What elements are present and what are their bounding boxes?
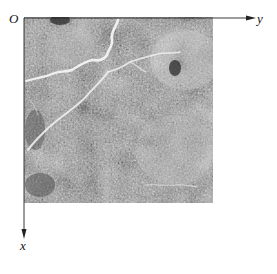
origin-label: O xyxy=(9,12,18,25)
surface-image xyxy=(24,15,220,203)
y-axis-label: y xyxy=(257,12,263,25)
coordinate-figure: O y x xyxy=(0,0,277,274)
figure-graphic xyxy=(0,0,277,274)
x-axis-label: x xyxy=(20,239,26,252)
y-axis-arrow-icon xyxy=(246,16,256,21)
